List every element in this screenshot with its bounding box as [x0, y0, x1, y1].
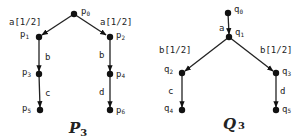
edge-p3-p5: [39, 74, 40, 107]
edge-label-q0-q1: a: [219, 23, 224, 33]
node-p4: [107, 71, 113, 77]
label-p2: p2: [116, 30, 125, 41]
edge-p0-p1: [42, 14, 74, 35]
node-q1: [226, 34, 232, 40]
label-p1: p1: [20, 29, 29, 40]
title-p3: P3: [68, 119, 87, 137]
label-q2: q2: [164, 64, 173, 75]
edge-label-p0-p2: a[1/2]: [100, 17, 133, 27]
edge-label-q1-q2: b[1/2]: [159, 45, 192, 55]
label-p6: p6: [116, 105, 125, 115]
edge-label-p3-p5: c: [45, 88, 50, 98]
node-p2: [107, 34, 113, 40]
node-p6: [107, 107, 113, 113]
edge-label-p0-p1: a[1/2]: [9, 17, 42, 27]
node-p5: [37, 107, 43, 113]
node-p1: [36, 34, 42, 40]
edge-q1-q2: [185, 37, 229, 71]
node-q3: [273, 70, 279, 76]
node-q4: [179, 107, 185, 113]
label-q4: q4: [164, 103, 173, 114]
node-q2: [179, 70, 185, 76]
tree-q3: q0 q1 q2 q3 q4 q5 a b[1/2] b[1/2] c d Q3: [159, 4, 293, 133]
tree-p3: p0 p1 p2 p3 p4 p5 p6 a[1/2] a[1/2] b b c…: [9, 6, 133, 137]
node-p0: [71, 11, 77, 17]
edge-label-q2-q4: c: [168, 86, 173, 96]
edge-label-p2-p4: b: [99, 50, 104, 60]
label-q5: q5: [282, 104, 291, 114]
label-p4: p4: [116, 69, 125, 79]
edge-label-q3-q5: d: [280, 86, 285, 96]
edge-label-p1-p3: b: [45, 52, 50, 62]
label-q1: q1: [235, 27, 244, 38]
diagram-canvas: p0 p1 p2 p3 p4 p5 p6 a[1/2] a[1/2] b b c…: [0, 0, 305, 137]
edge-label-q1-q3: b[1/2]: [260, 45, 293, 55]
label-p3: p3: [22, 67, 31, 78]
label-p0: p0: [81, 6, 90, 17]
node-q5: [273, 107, 279, 113]
label-q0: q0: [234, 4, 243, 15]
title-q3: Q3: [223, 115, 245, 133]
node-p3: [36, 71, 42, 77]
node-q0: [225, 10, 231, 16]
edge-label-p4-p6: d: [99, 87, 104, 97]
label-q3: q3: [282, 66, 291, 77]
label-p5: p5: [22, 103, 31, 114]
